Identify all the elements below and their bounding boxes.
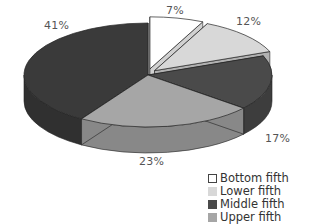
label-upper-fifth: 23% bbox=[139, 155, 164, 168]
label-lower-fifth: 12% bbox=[236, 15, 261, 28]
label-middle-fifth: 17% bbox=[265, 132, 290, 145]
swatch-upper-fifth bbox=[208, 213, 217, 222]
swatch-lower-fifth bbox=[208, 187, 217, 196]
label-top-slice: 41% bbox=[44, 19, 69, 32]
swatch-bottom-fifth bbox=[208, 174, 217, 183]
legend: Bottom fifth Lower fifth Middle fifth Up… bbox=[208, 172, 289, 224]
legend-label: Upper fifth bbox=[220, 211, 281, 224]
label-bottom-fifth: 7% bbox=[166, 4, 184, 17]
legend-item-upper-fifth: Upper fifth bbox=[208, 211, 289, 224]
swatch-middle-fifth bbox=[208, 200, 217, 209]
